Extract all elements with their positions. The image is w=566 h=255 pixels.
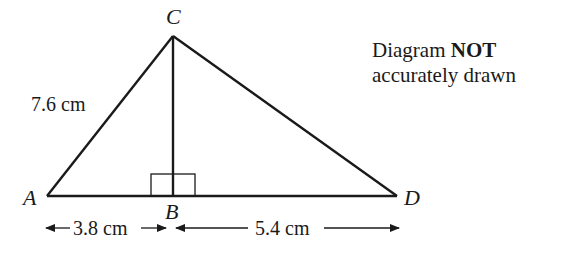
measurement-bd: 5.4 cm xyxy=(255,217,310,239)
point-a-label: A xyxy=(21,185,37,210)
point-d-label: D xyxy=(403,185,420,210)
measurement-ab: 3.8 cm xyxy=(73,217,128,239)
edge-ac xyxy=(47,36,173,196)
measurement-ac: 7.6 cm xyxy=(31,93,86,115)
note-prefix: Diagram xyxy=(372,38,451,62)
note-emphasis: NOT xyxy=(451,38,497,62)
triangle-diagram: C A B D 7.6 cm 3.8 cm 5.4 cm Diagram NOT… xyxy=(0,0,566,255)
accuracy-note-line1: Diagram NOT xyxy=(372,38,516,63)
accuracy-note-line2: accurately drawn xyxy=(372,63,516,88)
point-c-label: C xyxy=(166,4,181,29)
edge-cd xyxy=(173,36,397,196)
point-b-label: B xyxy=(165,199,178,224)
accuracy-note: Diagram NOT accurately drawn xyxy=(372,38,516,88)
